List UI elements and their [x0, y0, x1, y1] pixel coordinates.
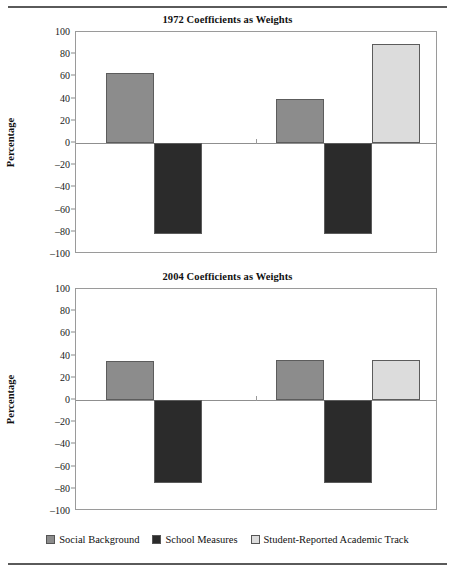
- y-tick-label: –100: [50, 505, 70, 516]
- y-axis-label-2004: Percentage: [0, 288, 22, 510]
- bar: [372, 360, 420, 400]
- plot-area-1972: [75, 31, 437, 253]
- bar: [372, 44, 420, 143]
- y-tick-label: –20: [55, 159, 70, 170]
- y-tick-label: 100: [55, 26, 70, 37]
- chart-body-2004: Percentage 100806040200–20–40–60–80–100: [0, 288, 455, 510]
- y-tick-label: –20: [55, 416, 70, 427]
- center-axis-tick: [256, 396, 257, 401]
- y-axis-ticks-1972: 100806040200–20–40–60–80–100: [22, 31, 75, 253]
- y-axis-label-1972: Percentage: [0, 31, 22, 253]
- y-tick-label: 0: [65, 137, 70, 148]
- legend-swatch-icon: [46, 535, 55, 544]
- plot-area-2004: [75, 288, 437, 510]
- y-tick-label: 20: [60, 371, 70, 382]
- y-axis-label-text: Percentage: [6, 117, 17, 166]
- y-tick-label: –80: [55, 225, 70, 236]
- y-tick-label: –80: [55, 482, 70, 493]
- y-tick-label: 100: [55, 283, 70, 294]
- bar: [106, 361, 154, 400]
- y-tick-label: –40: [55, 438, 70, 449]
- chart-legend: Social BackgroundSchool MeasuresStudent-…: [0, 534, 455, 545]
- chart-panel-2004: 2004 Coefficients as Weights Percentage …: [0, 271, 455, 526]
- legend-item-academic_track[interactable]: Student-Reported Academic Track: [251, 534, 409, 545]
- y-tick-label: –60: [55, 203, 70, 214]
- legend-item-social_background[interactable]: Social Background: [46, 534, 139, 545]
- y-tick-label: 40: [60, 349, 70, 360]
- figure-page: 1972 Coefficients as Weights Percentage …: [0, 0, 455, 573]
- legend-item-label: Student-Reported Academic Track: [264, 534, 409, 545]
- y-tick-label: 80: [60, 305, 70, 316]
- y-tick-label: 0: [65, 394, 70, 405]
- y-axis-ticks-2004: 100806040200–20–40–60–80–100: [22, 288, 75, 510]
- bar: [276, 99, 324, 143]
- bar: [324, 400, 372, 483]
- y-tick-label: –100: [50, 248, 70, 259]
- y-tick-label: 20: [60, 114, 70, 125]
- bar: [106, 73, 154, 143]
- y-tick-label: 60: [60, 327, 70, 338]
- legend-swatch-icon: [251, 535, 260, 544]
- y-axis-label-text: Percentage: [6, 374, 17, 423]
- y-tick-label: –60: [55, 460, 70, 471]
- top-rule: [8, 6, 447, 8]
- center-axis-tick: [256, 139, 257, 144]
- bar: [154, 400, 202, 483]
- legend-item-label: School Measures: [165, 534, 237, 545]
- legend-item-school_measures[interactable]: School Measures: [152, 534, 237, 545]
- bottom-rule: [8, 563, 447, 565]
- legend-swatch-icon: [152, 535, 161, 544]
- bar: [324, 143, 372, 234]
- y-tick-label: 80: [60, 48, 70, 59]
- y-tick-label: 40: [60, 92, 70, 103]
- y-tick-label: –40: [55, 181, 70, 192]
- bar: [154, 143, 202, 234]
- bar: [276, 360, 324, 400]
- y-tick-label: 60: [60, 70, 70, 81]
- chart-panel-1972: 1972 Coefficients as Weights Percentage …: [0, 14, 455, 269]
- legend-item-label: Social Background: [59, 534, 139, 545]
- chart-body-1972: Percentage 100806040200–20–40–60–80–100: [0, 31, 455, 253]
